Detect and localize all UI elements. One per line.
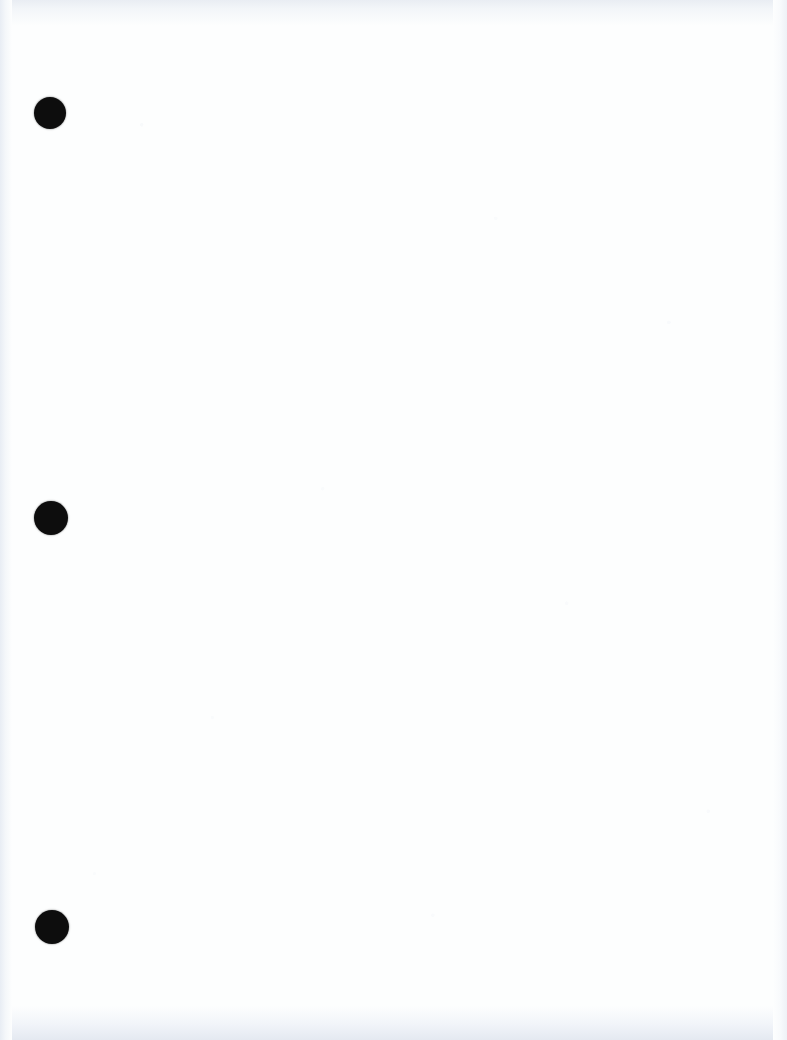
page-sheet-background	[0, 0, 787, 1040]
punch-hole-bottom	[35, 910, 69, 944]
punch-hole-top	[34, 97, 66, 129]
scanned-page	[0, 0, 787, 1040]
punch-hole-middle	[34, 501, 68, 535]
